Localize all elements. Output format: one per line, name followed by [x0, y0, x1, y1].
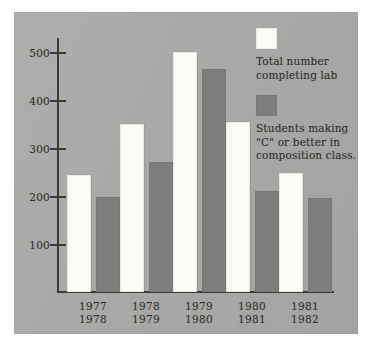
- bar-total-1977-1978: [67, 175, 91, 292]
- bar-total-1980-1981: [226, 122, 250, 292]
- bar-passing-1980-1981: [255, 191, 279, 292]
- x-axis-label-1977-1978: 1977 1978: [66, 300, 120, 326]
- legend-label-passing: Students making "C" or better in composi…: [256, 122, 360, 163]
- bar-passing-1977-1978: [96, 197, 120, 292]
- bar-chart-figure: 100 200 300 400 500 1977 1978 1978: [0, 0, 374, 345]
- x-axis-label-line-1: 1977: [66, 300, 120, 313]
- y-tick-label-500: 500: [18, 47, 50, 59]
- y-tick-label-100: 100: [18, 239, 50, 251]
- bar-passing-1981-1982: [308, 198, 332, 292]
- bar-total-1978-1979: [120, 124, 144, 292]
- x-axis-label-line-2: 1980: [172, 313, 226, 326]
- x-axis-label-1978-1979: 1978 1979: [119, 300, 173, 326]
- y-tick-label-200: 200: [18, 191, 50, 203]
- x-axis-label-line-1: 1979: [172, 300, 226, 313]
- x-axis-label-line-1: 1981: [278, 300, 332, 313]
- x-axis-label-1979-1980: 1979 1980: [172, 300, 226, 326]
- y-tick-300: [50, 148, 66, 150]
- bar-passing-1979-1980: [202, 69, 226, 292]
- y-tick-500: [50, 52, 66, 54]
- x-axis-label-1981-1982: 1981 1982: [278, 300, 332, 326]
- y-tick-label-300: 300: [18, 143, 50, 155]
- x-axis-label-line-2: 1979: [119, 313, 173, 326]
- x-axis-label-1980-1981: 1980 1981: [225, 300, 279, 326]
- x-axis-label-line-2: 1981: [225, 313, 279, 326]
- white-swatch-icon: [256, 28, 277, 49]
- x-axis-label-line-2: 1982: [278, 313, 332, 326]
- y-tick-400: [50, 100, 66, 102]
- bar-passing-1978-1979: [149, 162, 173, 292]
- bar-total-1979-1980: [173, 52, 197, 292]
- x-axis-label-line-1: 1980: [225, 300, 279, 313]
- y-tick-100: [50, 244, 66, 246]
- y-tick-label-400: 400: [18, 95, 50, 107]
- gray-swatch-icon: [256, 95, 277, 116]
- plot-area: 100 200 300 400 500 1977 1978 1978: [0, 0, 374, 345]
- legend-entry-passing: Students making "C" or better in composi…: [256, 95, 360, 163]
- y-tick-200: [50, 196, 66, 198]
- x-axis-label-line-1: 1978: [119, 300, 173, 313]
- x-axis-label-line-2: 1978: [66, 313, 120, 326]
- legend: Total number completing lab Students mak…: [256, 28, 360, 163]
- y-axis-line: [57, 38, 59, 293]
- bar-total-1981-1982: [279, 173, 303, 292]
- legend-entry-total: Total number completing lab: [256, 28, 360, 82]
- legend-label-total: Total number completing lab: [256, 55, 360, 82]
